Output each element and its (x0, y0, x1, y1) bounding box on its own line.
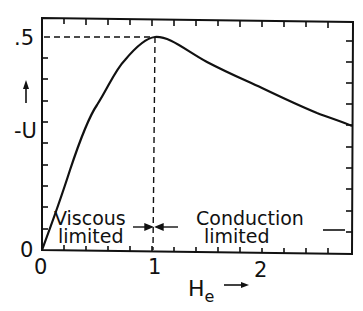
y-tick-05: .5 (14, 26, 34, 50)
y-axis-arrow-icon (23, 80, 29, 103)
x-tick-2: 2 (254, 258, 267, 282)
x-tick-1: 1 (148, 255, 161, 279)
x-axis-label: He (188, 276, 214, 306)
x-axis-label-main: H (188, 276, 205, 301)
x-tick-0: 0 (34, 255, 47, 279)
x-axis-arrow-icon (224, 282, 249, 288)
regime-boundary-arrows (133, 224, 178, 230)
y-axis-label: -U (14, 119, 37, 143)
viscous-label-line2: limited (58, 225, 124, 247)
peak-vertical-dashed-line (153, 37, 155, 250)
chart: .5 0 -U 0 1 2 He Viscous limited Conduct… (0, 0, 363, 311)
y-tick-0: 0 (20, 238, 33, 262)
x-axis-label-sub: e (205, 287, 215, 306)
conduction-label-line2: limited (204, 225, 270, 247)
